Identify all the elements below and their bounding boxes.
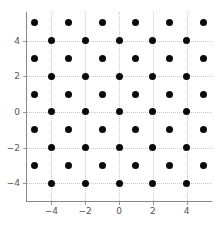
data-point [65,126,72,133]
data-point [116,180,123,187]
data-point [183,180,190,187]
data-point [166,55,173,62]
y-axis-tick [23,76,26,77]
data-point [48,144,55,151]
data-point [31,19,38,26]
y-axis-tick-label: 2 [14,71,20,81]
data-point [200,55,207,62]
data-point [200,126,207,133]
data-point [31,162,38,169]
x-axis-tick [119,202,120,205]
data-point [116,73,123,80]
data-point [65,162,72,169]
data-point [200,162,207,169]
x-axis-tick [187,202,188,205]
data-point [183,144,190,151]
data-point [200,19,207,26]
data-point [132,162,139,169]
x-axis-tick-label: −4 [45,206,58,216]
data-point [183,108,190,115]
data-point [116,108,123,115]
x-axis-tick-label: 0 [116,206,122,216]
y-axis-tick [23,148,26,149]
data-point [132,55,139,62]
scatter-plot-figure: −4−2024−4−2024 [0,0,224,228]
data-point [48,37,55,44]
y-axis-tick [23,41,26,42]
data-point [200,91,207,98]
data-point [149,37,156,44]
data-point [82,180,89,187]
y-axis-tick-label: 4 [14,36,20,46]
data-point [149,180,156,187]
data-point [99,55,106,62]
data-point [166,91,173,98]
data-point [166,19,173,26]
data-point [132,91,139,98]
y-axis-tick-label: 0 [14,107,20,117]
data-point [82,37,89,44]
data-point [31,91,38,98]
x-axis-tick [85,202,86,205]
plot-area [26,12,212,201]
data-point [132,19,139,26]
y-axis-tick-label: −2 [7,143,20,153]
y-axis-tick [23,183,26,184]
data-point [65,19,72,26]
data-point [183,37,190,44]
x-axis-tick-label: 4 [184,206,190,216]
data-point [116,37,123,44]
x-axis-tick-label: −2 [79,206,92,216]
y-axis-tick-label: −4 [7,178,20,188]
x-axis-tick-label: 2 [150,206,156,216]
data-point [48,108,55,115]
x-axis-tick [153,202,154,205]
data-point [99,19,106,26]
data-point [48,180,55,187]
data-point [48,73,55,80]
data-point [82,73,89,80]
data-point [82,144,89,151]
data-point [149,73,156,80]
data-point [99,162,106,169]
data-point [82,108,89,115]
x-axis-tick [51,202,52,205]
data-point [31,126,38,133]
data-point [99,126,106,133]
data-point [99,91,106,98]
data-point [149,144,156,151]
data-point [183,73,190,80]
data-point [65,91,72,98]
data-point [116,144,123,151]
data-point [166,126,173,133]
data-point [166,162,173,169]
data-point [31,55,38,62]
data-point [149,108,156,115]
data-point [65,55,72,62]
y-axis-spine [26,12,27,202]
data-point [132,126,139,133]
y-axis-tick [23,112,26,113]
